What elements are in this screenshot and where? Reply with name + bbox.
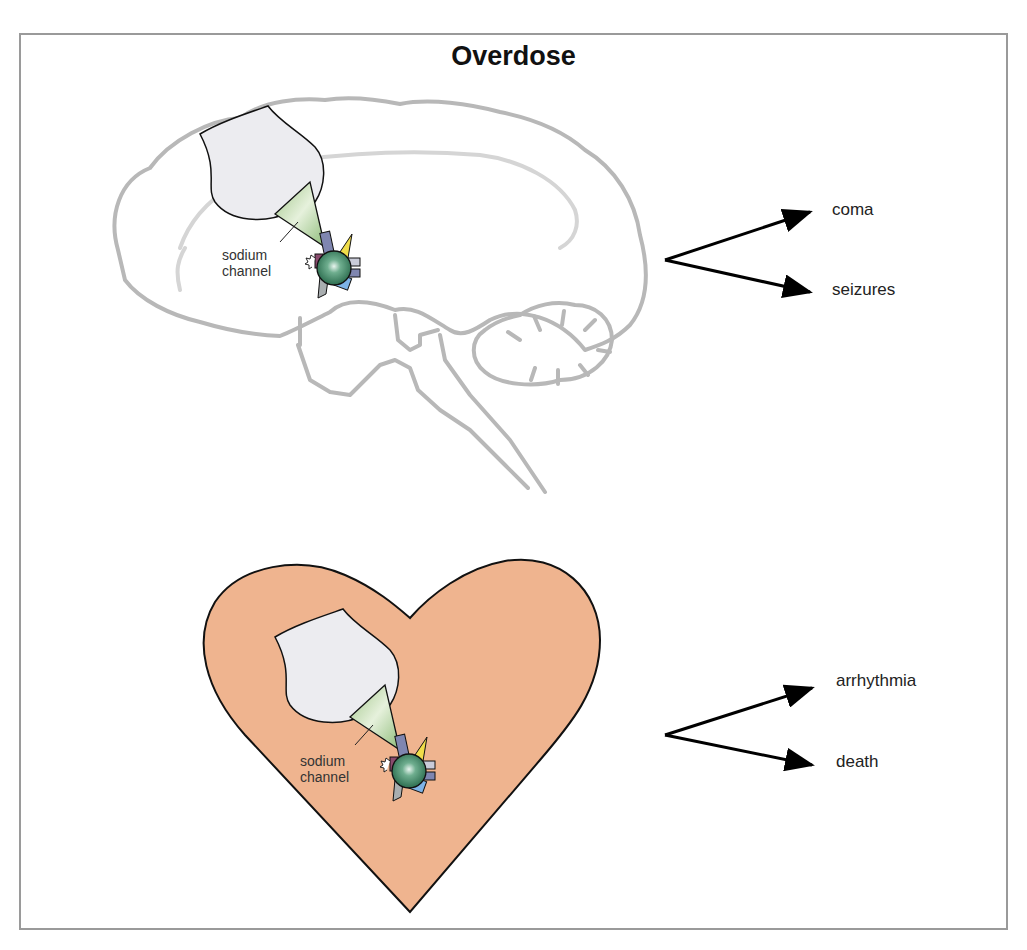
outcome-coma: coma	[832, 200, 874, 220]
brain-outline	[115, 98, 646, 492]
brain-outcome-arrows	[665, 212, 810, 292]
brain-channel-label: sodium channel	[222, 247, 271, 279]
heart-outcome-arrows	[665, 688, 812, 765]
heart-channel-label-line1: sodium	[300, 753, 349, 769]
heart-channel-label-line2: channel	[300, 769, 349, 785]
outcome-seizures: seizures	[832, 280, 895, 300]
diagram-canvas	[0, 0, 1027, 950]
heart-channel-label: sodium channel	[300, 753, 349, 785]
outcome-death: death	[836, 752, 879, 772]
brain-channel-label-line2: channel	[222, 263, 271, 279]
brain-channel-label-line1: sodium	[222, 247, 271, 263]
outcome-arrhythmia: arrhythmia	[836, 671, 916, 691]
